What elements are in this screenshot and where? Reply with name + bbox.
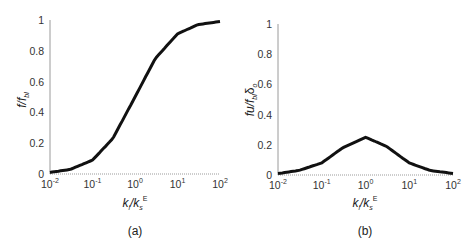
y-tick-label: 0.2 [257,139,272,151]
y-tick-label: 1 [266,18,272,30]
figure: 00.20.40.60.81 10-210-1100101102 f/fbl k… [0,0,473,242]
y-tick-label: 0.4 [257,109,272,121]
y-label-b: fu/fblδo [243,84,258,117]
x-tick-label: 10-2 [41,177,59,190]
y-tick-label: 1 [38,14,44,26]
panel-b: 00.20.40.60.81 10-210-1100101102 fu/fblδ… [243,18,461,238]
x-tick-label: 101 [170,177,186,190]
y-tick-label: 0.8 [257,48,272,60]
curve-a [50,22,220,173]
x-tick-label: 102 [212,177,228,190]
x-tick-label: 100 [127,177,143,190]
x-tick-label: 10-2 [269,178,287,191]
x-tick-label: 10-1 [313,178,331,191]
caption-b: (b) [358,224,373,238]
caption-a: (a) [128,224,143,238]
x-label-b: kl/ksE [352,195,377,211]
y-tick-label: 0.2 [29,137,44,149]
x-tick-label: 100 [358,178,374,191]
y-tick-label: 0.6 [257,78,272,90]
x-label-a: kl/ksE [122,195,147,211]
curve-b [278,137,453,173]
panel-a: 00.20.40.60.81 10-210-1100101102 f/fbl k… [15,14,228,238]
y-tick-label: 0.8 [29,45,44,57]
x-tick-label: 102 [445,178,461,191]
y-tick-label: 0.6 [29,76,44,88]
y-tick-label: 0.4 [29,106,44,118]
y-label-a: f/fbl [15,92,30,108]
x-tick-label: 10-1 [84,177,102,190]
x-tick-label: 101 [401,178,417,191]
